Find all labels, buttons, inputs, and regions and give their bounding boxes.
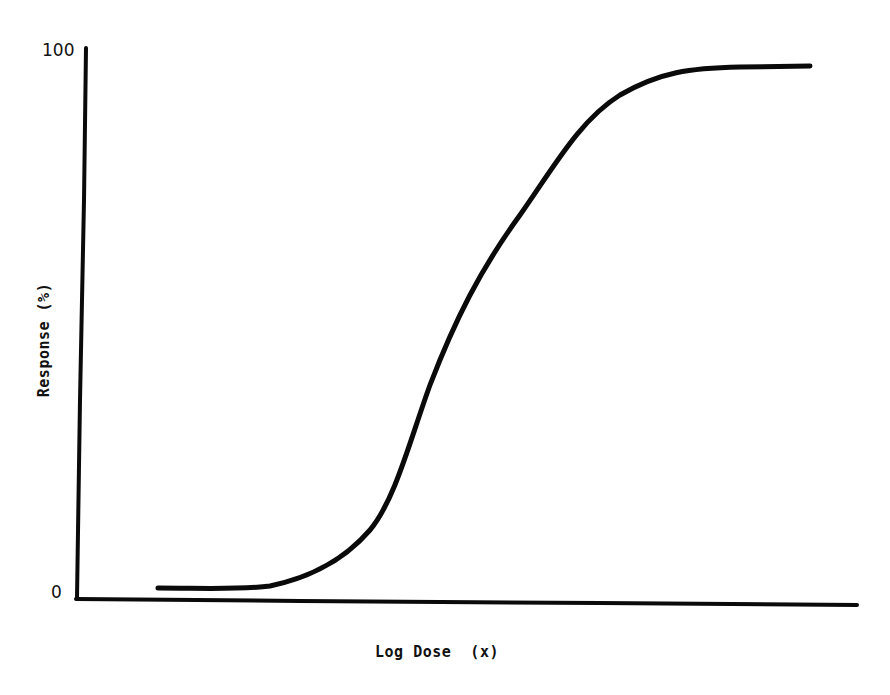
y-axis-label: Response (%) xyxy=(35,283,53,397)
dose-response-curve xyxy=(158,66,810,589)
x-axis-label: Log Dose (x) xyxy=(375,643,499,661)
y-tick-0: 0 xyxy=(51,582,62,602)
x-axis xyxy=(76,599,857,605)
chart-svg xyxy=(0,0,890,695)
y-tick-100: 100 xyxy=(42,40,74,60)
chart-area: 100 0 Response (%) Log Dose (x) xyxy=(0,0,890,695)
y-axis xyxy=(77,48,86,598)
